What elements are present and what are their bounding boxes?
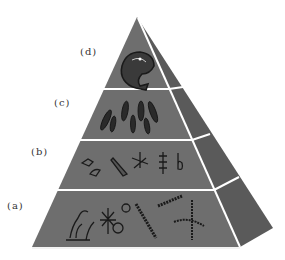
- level-label-a: (a): [7, 200, 24, 211]
- level-label-d: (d): [80, 46, 97, 57]
- level-label-c: (c): [54, 97, 70, 108]
- level-label-b: (b): [31, 146, 48, 157]
- trophic-pyramid: [0, 0, 285, 260]
